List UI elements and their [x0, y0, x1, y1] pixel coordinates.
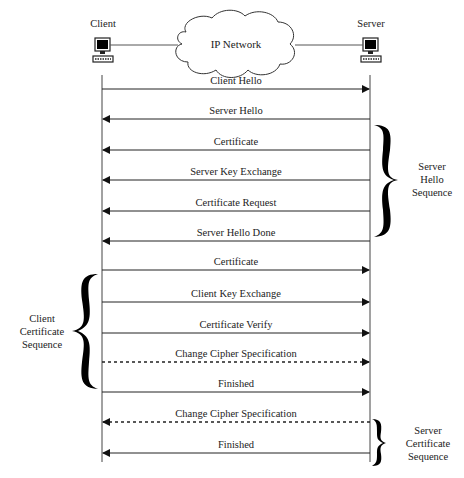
group-label-line: Sequence [396, 450, 460, 463]
group-label-line: Client [12, 312, 72, 325]
message-label: Change Cipher Specification [102, 408, 370, 419]
server-certificate-sequence-label: Server Certificate Sequence [396, 424, 460, 463]
server-hello-sequence-label: Server Hello Sequence [402, 160, 462, 199]
message-label: Client Hello [102, 75, 370, 86]
group-label-line: Certificate [396, 437, 460, 450]
server-computer-icon [361, 38, 381, 62]
client-label: Client [85, 18, 121, 29]
message-label: Server Hello Done [102, 227, 370, 238]
group-label-line: Sequence [12, 338, 72, 351]
message-label: Finished [102, 378, 370, 389]
group-label-line: Sequence [402, 186, 462, 199]
message-label: Certificate Verify [102, 319, 370, 330]
message-label: Server Hello [102, 105, 370, 116]
server-hello-brace [374, 125, 398, 237]
group-label-line: Hello [402, 173, 462, 186]
client-computer-icon [93, 38, 113, 62]
message-label: Certificate [102, 136, 370, 147]
sequence-diagram-canvas [0, 0, 464, 478]
message-label: Certificate Request [102, 197, 370, 208]
message-label: Certificate [102, 256, 370, 267]
server-label: Server [350, 18, 392, 29]
server-certificate-brace [372, 419, 386, 466]
client-certificate-sequence-label: Client Certificate Sequence [12, 312, 72, 351]
client-certificate-brace [72, 274, 98, 389]
message-label: Finished [102, 439, 370, 450]
group-label-line: Certificate [12, 325, 72, 338]
group-label-line: Server [396, 424, 460, 437]
message-label: Change Cipher Specification [102, 348, 370, 359]
group-label-line: Server [402, 160, 462, 173]
message-label: Server Key Exchange [102, 166, 370, 177]
network-label: IP Network [196, 38, 276, 50]
message-label: Client Key Exchange [102, 288, 370, 299]
